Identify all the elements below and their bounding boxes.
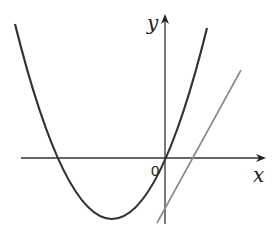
origin-label: 0 bbox=[151, 162, 159, 179]
parabola-curve bbox=[15, 24, 207, 219]
y-axis-label: y bbox=[146, 11, 159, 35]
graph-canvas: y x 0 bbox=[0, 0, 279, 231]
x-axis-label: x bbox=[253, 163, 264, 187]
